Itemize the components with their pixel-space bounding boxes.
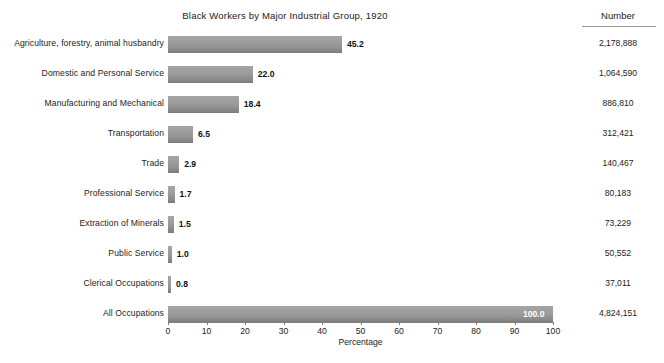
bar-track: 22.0 [168,66,553,83]
bar-track: 0.8 [168,276,553,293]
axis-tick-mark [322,322,323,325]
axis-tick-mark [476,322,477,325]
chart-row: Extraction of Minerals1.573,229 [0,214,664,244]
axis-tick-label: 60 [394,326,404,336]
axis-tick-label: 80 [471,326,481,336]
axis-tick-mark [207,322,208,325]
axis-tick-mark [438,322,439,325]
bar-chart: Black Workers by Major Industrial Group,… [0,0,664,363]
bar-track: 45.2 [168,36,553,53]
category-label: Professional Service [84,188,164,198]
chart-row: Domestic and Personal Service22.01,064,5… [0,64,664,94]
axis-tick-mark [515,322,516,325]
axis-tick-label: 20 [240,326,250,336]
bar [168,186,175,203]
chart-row: Public Service1.050,552 [0,244,664,274]
bar [168,66,253,83]
bar-value-label: 2.9 [184,159,196,169]
axis-tick-label: 90 [510,326,520,336]
bar-track: 6.5 [168,126,553,143]
number-value: 2,178,888 [578,38,658,48]
number-value: 886,810 [578,98,658,108]
number-value: 73,229 [578,218,658,228]
number-value: 140,467 [578,158,658,168]
category-label: Public Service [108,248,164,258]
category-label: Clerical Occupations [83,278,164,288]
category-label: All Occupations [103,308,164,318]
bar-value-label: 22.0 [258,69,275,79]
bar-value-label: 45.2 [347,39,364,49]
bar-value-label: 1.0 [177,249,189,259]
axis-tick-label: 100 [546,326,560,336]
number-value: 312,421 [578,128,658,138]
category-label: Domestic and Personal Service [42,68,164,78]
bar-track: 2.9 [168,156,553,173]
bar [168,216,174,233]
bar [168,36,342,53]
chart-row: Trade2.9140,467 [0,154,664,184]
chart-row: Professional Service1.780,183 [0,184,664,214]
category-label: Agriculture, forestry, animal husbandry [14,38,164,48]
axis-tick-mark [245,322,246,325]
x-axis-title: Percentage [168,337,553,347]
chart-row: Transportation6.5312,421 [0,124,664,154]
axis-tick-label: 50 [356,326,366,336]
number-value: 4,824,151 [578,308,658,318]
axis-tick-label: 30 [279,326,289,336]
axis-tick-label: 70 [433,326,443,336]
axis-tick-mark [168,322,169,325]
bar-value-label: 6.5 [198,129,210,139]
axis-tick-label: 10 [202,326,212,336]
category-label: Manufacturing and Mechanical [45,98,164,108]
category-label: Extraction of Minerals [79,218,164,228]
bar-value-label: 1.7 [180,189,192,199]
axis-tick-label: 0 [166,326,171,336]
bar-value-label: 0.8 [176,279,188,289]
bar-track: 1.0 [168,246,553,263]
number-value: 50,552 [578,248,658,258]
bar-value-label: 100.0 [523,309,545,319]
number-value: 1,064,590 [578,68,658,78]
bar [168,246,172,263]
chart-title: Black Workers by Major Industrial Group,… [0,10,570,21]
axis-tick-mark [361,322,362,325]
number-column-header-rule [582,26,656,27]
bar [168,96,239,113]
bar [168,276,171,293]
number-value: 37,011 [578,278,658,288]
number-value: 80,183 [578,188,658,198]
bar [168,126,193,143]
bar-track: 18.4 [168,96,553,113]
chart-row: Manufacturing and Mechanical18.4886,810 [0,94,664,124]
number-column-header: Number [578,10,658,21]
x-axis-ticks: 0102030405060708090100 [0,322,664,336]
axis-tick-mark [399,322,400,325]
axis-tick-mark [553,322,554,325]
category-label: Transportation [108,128,164,138]
category-label: Trade [141,158,164,168]
bar-value-label: 1.5 [179,219,191,229]
chart-row: Clerical Occupations0.837,011 [0,274,664,304]
bar [168,156,179,173]
bar-track: 1.7 [168,186,553,203]
chart-row: Agriculture, forestry, animal husbandry4… [0,34,664,64]
bar-track: 1.5 [168,216,553,233]
chart-rows: Agriculture, forestry, animal husbandry4… [0,34,664,334]
axis-tick-mark [284,322,285,325]
axis-tick-label: 40 [317,326,327,336]
bar-value-label: 18.4 [244,99,261,109]
